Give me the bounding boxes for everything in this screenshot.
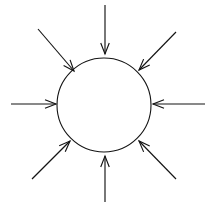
diagram-canvas (0, 0, 209, 206)
radial-arrows-diagram (0, 0, 209, 206)
